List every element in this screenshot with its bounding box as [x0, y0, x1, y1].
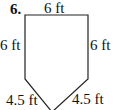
left-side-label: 6 ft: [0, 38, 20, 53]
right-side-label: 6 ft: [90, 38, 110, 53]
bottom-left-side-label: 4.5 ft: [6, 93, 38, 108]
bottom-right-side-label: 4.5 ft: [72, 92, 104, 107]
problem-number: 6.: [10, 2, 21, 17]
top-side-label: 6 ft: [44, 1, 64, 16]
